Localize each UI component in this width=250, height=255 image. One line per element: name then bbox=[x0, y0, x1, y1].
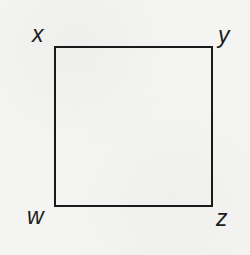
vertex-label-bottom-left: w bbox=[27, 205, 44, 228]
vertex-label-bottom-right: z bbox=[216, 207, 228, 230]
diagram-canvas: x y w z bbox=[0, 0, 250, 255]
square-shape bbox=[54, 46, 213, 207]
vertex-label-top-right: y bbox=[218, 24, 230, 47]
vertex-label-top-left: x bbox=[32, 23, 44, 46]
